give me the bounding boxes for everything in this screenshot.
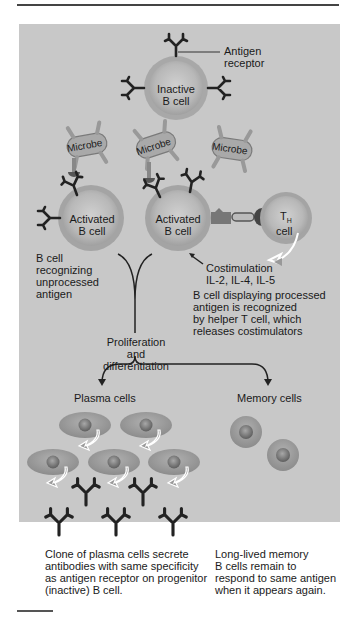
inactive-b-cell-label: Inactive B cell	[156, 83, 196, 107]
memory-caption: Long-lived memory B cells remain to resp…	[215, 548, 336, 596]
plasma-caption: Clone of plasma cells secrete antibodies…	[45, 548, 207, 596]
plasma-cells-group	[27, 412, 200, 535]
activated-b-cell-1	[38, 158, 124, 251]
antigen-receptor-label: Antigen receptor	[224, 45, 264, 69]
memory-cells-group	[230, 416, 299, 471]
proliferation-label: Proliferation and differentiation	[98, 336, 174, 372]
merge-line	[118, 254, 152, 300]
antibody-icon	[208, 77, 230, 99]
th-cell-word: cell	[276, 225, 293, 237]
inactive-b-cell	[122, 34, 230, 120]
b-cell-displaying-label: B cell displaying processed antigen is r…	[193, 289, 326, 337]
costimulation-label: Costimulation IL-2, IL-4, IL-5	[206, 262, 275, 286]
arrow-icon	[192, 256, 203, 264]
memory-cells-heading: Memory cells	[237, 392, 302, 404]
antibody-icon	[165, 34, 187, 56]
antibody-icon	[122, 77, 144, 99]
activated-b-cell-label: Activated B cell	[153, 213, 203, 237]
activated-b-cell-label: Activated B cell	[67, 213, 117, 237]
figure-marker	[17, 610, 53, 612]
plasma-cells-heading: Plasma cells	[74, 392, 136, 404]
b-cell-recognizing-label: B cell recognizing unprocessed antigen	[36, 252, 99, 300]
activated-b-cell-2	[141, 162, 266, 251]
